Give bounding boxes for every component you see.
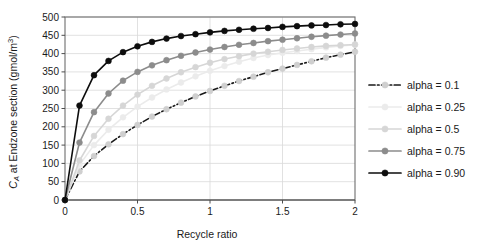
legend-swatch-alpha-0-25 — [368, 101, 402, 113]
y-tick-label: 350 — [42, 66, 59, 77]
data-point — [106, 141, 112, 147]
data-point — [352, 31, 358, 37]
y-axis-title: CA at Endzone section (gmol/m3) — [6, 35, 22, 188]
legend-label: alpha = 0.90 — [407, 167, 465, 179]
y-tick-label: 300 — [42, 85, 59, 96]
data-point — [265, 69, 271, 75]
data-point — [135, 43, 141, 49]
data-point — [323, 33, 329, 39]
data-point — [265, 38, 271, 44]
data-point — [149, 62, 155, 68]
data-point — [352, 42, 358, 48]
data-point — [178, 33, 184, 39]
data-point — [149, 95, 155, 101]
data-point — [323, 55, 329, 61]
data-point — [236, 78, 242, 84]
legend-swatch-alpha-0-1 — [368, 79, 402, 91]
data-point — [178, 80, 184, 86]
data-point — [222, 44, 228, 50]
x-tick-label: 0 — [62, 206, 68, 217]
data-point — [222, 28, 228, 34]
data-point — [91, 72, 97, 78]
legend-label: alpha = 0.75 — [407, 145, 465, 157]
data-point — [120, 103, 126, 109]
legend-swatch-alpha-0-75 — [368, 145, 402, 157]
data-point — [222, 63, 228, 69]
data-point — [149, 39, 155, 45]
data-point — [236, 27, 242, 33]
data-point — [309, 58, 315, 64]
data-point — [309, 34, 315, 40]
data-point — [251, 51, 257, 57]
data-point — [77, 158, 83, 164]
data-point — [178, 53, 184, 59]
data-point — [265, 25, 271, 31]
data-point — [164, 87, 170, 93]
data-point — [207, 29, 213, 35]
data-point — [193, 94, 199, 100]
data-point — [106, 91, 112, 97]
legend-label: alpha = 0.1 — [407, 79, 459, 91]
data-point — [294, 62, 300, 68]
data-point — [338, 32, 344, 38]
data-point — [120, 114, 126, 120]
data-point — [352, 49, 358, 55]
data-point — [106, 58, 112, 64]
data-point — [149, 114, 155, 120]
x-tick-label: 0.5 — [131, 206, 145, 217]
data-point — [91, 153, 97, 159]
y-tick-label: 50 — [48, 176, 60, 187]
legend-item-alpha-0-25[interactable]: alpha = 0.25 — [368, 100, 465, 113]
data-point — [323, 22, 329, 28]
data-point — [91, 109, 97, 115]
legend-item-alpha-0-1[interactable]: alpha = 0.1 — [368, 78, 465, 91]
data-point — [236, 53, 242, 59]
y-tick-label: 400 — [42, 48, 59, 59]
y-tick-label: 200 — [42, 121, 59, 132]
data-point — [135, 122, 141, 128]
figure-root: 050100150200250300350400450500 00.511.52… — [0, 0, 477, 243]
data-point — [164, 36, 170, 42]
data-point — [91, 142, 97, 148]
data-point — [280, 37, 286, 43]
y-tick-label: 0 — [53, 195, 59, 206]
y-tick-label: 100 — [42, 158, 59, 169]
legend-label: alpha = 0.5 — [407, 123, 459, 135]
legend-item-alpha-0-75[interactable]: alpha = 0.75 — [368, 144, 465, 157]
data-point — [207, 47, 213, 53]
data-point — [309, 44, 315, 50]
y-tick-label: 150 — [42, 140, 59, 151]
data-point — [222, 83, 228, 89]
data-point — [62, 197, 68, 203]
legend-item-alpha-0-5[interactable]: alpha = 0.5 — [368, 122, 465, 135]
data-point — [222, 56, 228, 62]
data-point — [120, 49, 126, 55]
data-point — [178, 69, 184, 75]
data-point — [352, 21, 358, 27]
data-point — [207, 88, 213, 94]
legend-swatch-alpha-0-5 — [368, 123, 402, 135]
data-point — [294, 23, 300, 29]
chart-legend: alpha = 0.1 alpha = 0.25 alpha = 0.5 alp… — [368, 78, 465, 179]
legend-label: alpha = 0.25 — [407, 101, 465, 113]
x-axis-ticks: 00.511.52 — [62, 200, 358, 217]
data-point — [323, 43, 329, 49]
data-point — [164, 76, 170, 82]
y-tick-label: 450 — [42, 30, 59, 41]
data-point — [309, 23, 315, 29]
data-point — [178, 100, 184, 106]
data-point — [164, 57, 170, 63]
legend-item-alpha-0-90[interactable]: alpha = 0.90 — [368, 166, 465, 179]
y-tick-label: 250 — [42, 103, 59, 114]
data-point — [294, 46, 300, 52]
data-point — [91, 133, 97, 139]
data-point — [338, 42, 344, 48]
data-point — [338, 52, 344, 58]
data-point — [120, 78, 126, 84]
data-point — [193, 31, 199, 37]
data-point — [265, 49, 271, 55]
data-point — [294, 35, 300, 41]
data-point — [77, 103, 83, 109]
data-point — [251, 26, 257, 32]
svg-text:CA at Endzone section (gmol/m: CA at Endzone section (gmol/m3) — [6, 35, 22, 188]
